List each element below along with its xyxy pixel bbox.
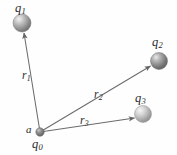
charge-spheres xyxy=(13,14,168,136)
charge-label-q2: q2 xyxy=(152,36,163,50)
point-charge-vector-diagram: q1 q2 q3 q0 a r1 r2 r3 xyxy=(0,0,177,155)
distance-label-r2: r2 xyxy=(94,89,103,102)
charge-label-q1: q1 xyxy=(15,2,26,16)
charge-label-q0: q0 xyxy=(32,138,43,152)
point-label-a: a xyxy=(26,124,32,135)
charge-sphere-q3 xyxy=(135,106,152,123)
charge-sphere-q1 xyxy=(13,14,31,32)
charge-sphere-q0 xyxy=(36,128,44,136)
charge-label-q3: q3 xyxy=(135,92,146,106)
charge-sphere-q2 xyxy=(151,53,168,70)
distance-label-r1: r1 xyxy=(22,70,31,83)
distance-label-r3: r3 xyxy=(80,115,89,128)
